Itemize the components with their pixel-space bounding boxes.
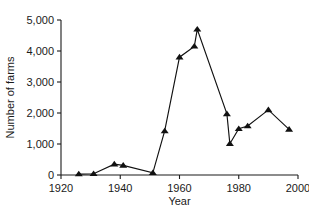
data-point-marker: [190, 43, 198, 49]
y-tick-label: 2,000: [26, 107, 54, 119]
y-tick-label: 4,000: [26, 45, 54, 57]
y-tick-label: 0: [48, 169, 54, 181]
data-point-marker: [161, 128, 169, 134]
data-point-marker: [90, 170, 98, 176]
x-tick-label: 1940: [108, 182, 132, 194]
y-tick-label: 5,000: [26, 14, 54, 26]
x-tick-label: 1980: [227, 182, 251, 194]
data-point-marker: [226, 140, 234, 146]
x-tick-label: 1960: [167, 182, 191, 194]
data-series-line: [79, 29, 289, 174]
data-point-marker: [193, 26, 201, 32]
y-tick-label: 3,000: [26, 76, 54, 88]
line-chart: 01,0002,0003,0004,0005,00019201940196019…: [0, 0, 309, 212]
data-point-marker: [223, 111, 231, 117]
data-point-marker: [110, 161, 118, 167]
data-point-marker: [264, 107, 272, 113]
x-tick-label: 1920: [49, 182, 73, 194]
chart-container: 01,0002,0003,0004,0005,00019201940196019…: [0, 0, 309, 212]
x-tick-label: 2000: [286, 182, 309, 194]
y-tick-label: 1,000: [26, 138, 54, 150]
x-axis-title: Year: [168, 195, 191, 207]
y-axis-title: Number of farms: [4, 56, 16, 138]
